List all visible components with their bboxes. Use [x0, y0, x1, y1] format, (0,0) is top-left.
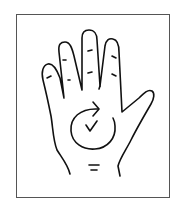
finger-crease: [88, 72, 92, 73]
finger-crease: [112, 74, 116, 76]
finger-crease: [112, 56, 116, 58]
finger-crease: [47, 76, 51, 78]
check-mark-icon: [86, 121, 97, 131]
hand-palm-icon: [42, 30, 154, 176]
finger-crease: [99, 86, 100, 89]
finger-crease: [88, 50, 92, 51]
hand-illustration: [0, 0, 180, 212]
